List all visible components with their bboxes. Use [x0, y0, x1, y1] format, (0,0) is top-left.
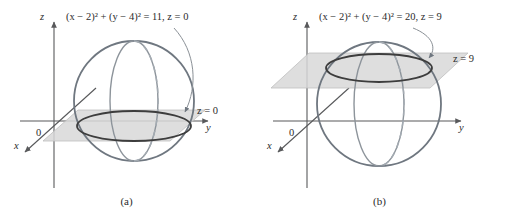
panel-a: (x − 2)² + (y − 4)² = 11, z = 0 z = 0 z …: [0, 0, 253, 213]
x-axis-label: x: [267, 140, 272, 151]
leader-line: [174, 28, 193, 112]
x-axis-label: x: [14, 140, 19, 151]
equation-label-b: (x − 2)² + (y − 4)² = 20, z = 9: [319, 11, 442, 22]
z-axis-label: z: [293, 11, 297, 22]
origin-label: 0: [289, 127, 294, 138]
origin-label: 0: [36, 127, 41, 138]
cutting-plane: [271, 53, 468, 88]
panel-b-graphic: [253, 0, 506, 213]
cutting-plane: [43, 110, 205, 141]
sphere-meridian-back: [134, 41, 158, 161]
x-axis: [278, 88, 349, 152]
sphere-outline: [74, 41, 194, 161]
plane-label-a: z = 0: [197, 105, 218, 116]
z-axis-label: z: [40, 11, 44, 22]
plane-label-b: z = 9: [453, 53, 474, 64]
y-axis-label: y: [206, 122, 211, 133]
sphere-plane-intersection-figure: (x − 2)² + (y − 4)² = 11, z = 0 z = 0 z …: [0, 0, 506, 213]
equation-label-a: (x − 2)² + (y − 4)² = 11, z = 0: [66, 11, 188, 22]
y-axis-label: y: [459, 122, 464, 133]
panel-b: (x − 2)² + (y − 4)² = 20, z = 9 z = 9 z …: [253, 0, 506, 213]
panel-a-caption: (a): [0, 195, 253, 207]
panel-b-caption: (b): [253, 195, 506, 207]
